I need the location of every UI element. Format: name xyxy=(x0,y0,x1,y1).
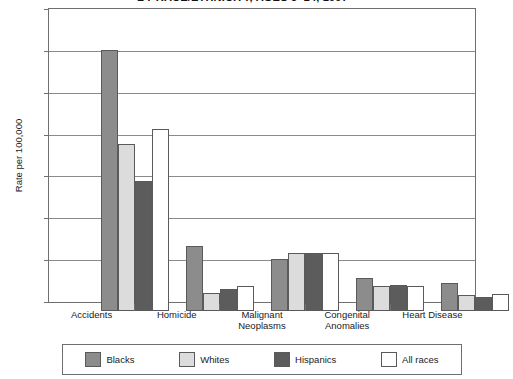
y-axis-title: Rate per 100,000 xyxy=(13,101,24,211)
legend-swatch-icon xyxy=(179,352,195,367)
category-separator-tick xyxy=(305,304,306,311)
x-axis-tick-label: Homicide xyxy=(134,309,219,320)
x-axis-tick-label: MalignantNeoplasms xyxy=(219,309,304,331)
bar-groups xyxy=(98,18,513,311)
bar xyxy=(356,278,373,311)
y-axis-tick-mark xyxy=(44,218,49,219)
legend-label: Hispanics xyxy=(295,354,336,365)
bar xyxy=(271,259,288,311)
x-axis-tick-label: Heart Disease xyxy=(390,309,475,320)
bar xyxy=(118,144,135,311)
bar xyxy=(186,246,203,311)
x-axis-tick-label: Accidents xyxy=(49,309,134,320)
bar xyxy=(441,283,458,311)
category-separator-tick xyxy=(134,304,135,311)
legend: BlacksWhitesHispanicsAll races xyxy=(62,344,462,375)
x-axis-tick-label-line: Neoplasms xyxy=(219,320,304,331)
y-axis-tick-mark xyxy=(44,93,49,94)
legend-label: All races xyxy=(402,354,438,365)
x-axis-tick-label-line: Homicide xyxy=(134,309,219,320)
legend-label: Whites xyxy=(200,354,229,365)
legend-item[interactable]: Blacks xyxy=(85,352,134,367)
bar xyxy=(475,297,492,311)
y-axis-tick-mark xyxy=(44,9,49,10)
legend-swatch-icon xyxy=(381,352,397,367)
category-separator-tick xyxy=(219,304,220,311)
x-axis-tick-label-line: Anomalies xyxy=(305,320,390,331)
bar xyxy=(220,289,237,311)
bar xyxy=(390,285,407,311)
legend-swatch-icon xyxy=(274,352,290,367)
category-separator-tick xyxy=(390,304,391,311)
x-axis-tick-label-line: Congenital xyxy=(305,309,390,320)
legend-swatch-icon xyxy=(85,352,101,367)
y-axis-tick-mark xyxy=(44,260,49,261)
bar xyxy=(237,286,254,311)
x-axis-tick-label-line: Accidents xyxy=(49,309,134,320)
plot-area xyxy=(48,8,476,303)
legend-item[interactable]: All races xyxy=(381,352,438,367)
x-axis-tick-label-line: Malignant xyxy=(219,309,304,320)
y-axis-tick-mark xyxy=(44,176,49,177)
chart-title: BY RACE/ETHNICITY, AGES 5–14, 1997 xyxy=(0,0,485,3)
bar xyxy=(135,181,152,311)
bar xyxy=(152,129,169,311)
y-axis-tick-mark xyxy=(44,51,49,52)
x-axis-tick-label-line: Heart Disease xyxy=(390,309,475,320)
bar xyxy=(101,50,118,311)
bar xyxy=(373,286,390,311)
bar xyxy=(305,253,322,311)
legend-item[interactable]: Whites xyxy=(179,352,229,367)
bar xyxy=(492,294,509,311)
legend-label: Blacks xyxy=(106,354,134,365)
y-axis-tick-mark xyxy=(44,135,49,136)
bar xyxy=(322,253,339,311)
bar xyxy=(407,286,424,311)
bar xyxy=(288,253,305,311)
x-axis-tick-label: CongenitalAnomalies xyxy=(305,309,390,331)
legend-item[interactable]: Hispanics xyxy=(274,352,336,367)
y-axis-tick-mark xyxy=(44,302,49,303)
